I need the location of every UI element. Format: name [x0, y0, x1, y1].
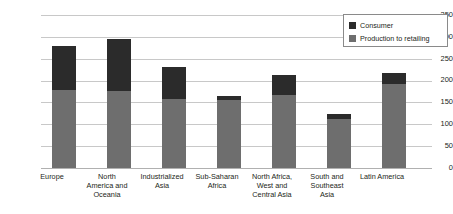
x-tick-label-latin-america: Latin America: [351, 172, 413, 181]
label-line: Latin America: [351, 172, 413, 181]
bar-segment-consumer: [162, 67, 186, 99]
legend-label-production: Production to retailing: [360, 34, 430, 43]
bar-segment-production: [162, 99, 186, 168]
bar-europe[interactable]: [52, 46, 76, 168]
bar-segment-production: [52, 90, 76, 168]
x-tick-label-north-america-and-oceania: North America and Oceania: [76, 172, 138, 200]
gridline-200: [41, 81, 432, 82]
label-line: Sub-Saharan: [186, 172, 248, 181]
x-axis-baseline: [41, 168, 432, 169]
legend-label-consumer: Consumer: [360, 21, 393, 30]
bar-segment-consumer: [272, 75, 296, 95]
bar-segment-production: [382, 84, 406, 168]
x-tick-label-south-and-southeast-asia: South and Southeast Asia: [296, 172, 358, 200]
label-line: Asia: [296, 190, 358, 199]
bar-segment-consumer: [52, 46, 76, 91]
bar-segment-production: [327, 119, 351, 168]
label-line: Oceania: [76, 190, 138, 199]
legend-item-consumer[interactable]: Consumer: [349, 19, 447, 32]
stacked-bar-chart: 350 300 250 200 150 100 50 0: [0, 0, 453, 214]
x-tick-label-industrialized-asia: Industrialized Asia: [131, 172, 193, 190]
x-tick-label-europe: Europe: [21, 172, 83, 181]
label-line: Southeast: [296, 181, 358, 190]
label-line: Central Asia: [241, 190, 303, 199]
legend-swatch-icon-consumer: [349, 22, 356, 29]
bar-segment-production: [217, 100, 241, 168]
gridline-250: [41, 59, 432, 60]
bar-sub-saharan-africa[interactable]: [217, 96, 241, 168]
legend-item-production-to-retailing[interactable]: Production to retailing: [349, 32, 447, 45]
label-line: North: [76, 172, 138, 181]
label-line: West and: [241, 181, 303, 190]
label-line: Industrialized: [131, 172, 193, 181]
legend-swatch-icon-production: [349, 35, 356, 42]
chart-legend: Consumer Production to retailing: [343, 14, 448, 47]
label-line: America and: [76, 181, 138, 190]
x-tick-label-north-africa-west-and-central-asia: North Africa, West and Central Asia: [241, 172, 303, 200]
bar-segment-production: [272, 95, 296, 168]
bar-segment-production: [107, 91, 131, 168]
x-tick-label-sub-saharan-africa: Sub-Saharan Africa: [186, 172, 248, 190]
bar-segment-consumer: [382, 73, 406, 84]
bar-south-and-southeast-asia[interactable]: [327, 114, 351, 168]
bar-segment-consumer: [107, 39, 131, 91]
bar-industrialized-asia[interactable]: [162, 67, 186, 168]
bar-north-america-and-oceania[interactable]: [107, 39, 131, 168]
label-line: North Africa,: [241, 172, 303, 181]
bar-latin-america[interactable]: [382, 73, 406, 168]
label-line: South and: [296, 172, 358, 181]
bar-north-africa-west-and-central-asia[interactable]: [272, 75, 296, 168]
label-line: Asia: [131, 181, 193, 190]
label-line: Europe: [21, 172, 83, 181]
label-line: Africa: [186, 181, 248, 190]
